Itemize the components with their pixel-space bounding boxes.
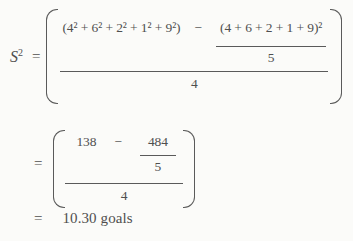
outer-denominator-step2: 4 (121, 184, 128, 205)
sum-squared-value: 484 (140, 133, 176, 155)
outer-fraction-step1: (4² + 6² + 2² + 1² + 9²) − (4 + 6 + 2 + … (58, 14, 330, 100)
sum-squared-value-fraction: 484 5 (140, 133, 176, 176)
minus-operator-step2: − (114, 133, 122, 151)
left-bracket-step1 (46, 9, 58, 104)
sum-squared-term: (4 + 6 + 2 + 1 + 9)² (216, 19, 326, 46)
right-bracket-step1 (330, 9, 342, 104)
left-bracket-step2 (53, 130, 65, 208)
equals-sign-step2: = (34, 155, 42, 172)
inner-denominator-step2: 5 (155, 156, 162, 176)
outer-fraction-step2: 138 − 484 5 4 (65, 131, 182, 208)
inner-denominator-step1: 5 (268, 47, 275, 67)
variance-symbol-exponent: 2 (18, 47, 23, 58)
result-value: 10.30 goals (62, 210, 132, 227)
sum-squared-fraction: (4 + 6 + 2 + 1 + 9)² 5 (216, 19, 326, 67)
right-bracket-step2 (183, 130, 195, 208)
outer-denominator-step1: 4 (191, 72, 198, 93)
sum-of-squares-value: 138 (76, 133, 96, 151)
sum-of-squares-term: (4² + 6² + 2² + 1² + 9²) (62, 19, 180, 37)
minus-operator-step1: − (195, 19, 203, 37)
result-line: = 10.30 goals (34, 210, 133, 227)
variance-formula-step1: S2 = (4² + 6² + 2² + 1² + 9²) − (4 + 6 +… (10, 9, 342, 104)
equals-sign-step1: = (32, 48, 40, 65)
equals-sign-result: = (34, 210, 42, 227)
variance-symbol-base: S (10, 48, 18, 65)
worksheet-page: S2 = (4² + 6² + 2² + 1² + 9²) − (4 + 6 +… (0, 0, 353, 241)
variance-formula-step2: = 138 − 484 5 4 (34, 130, 195, 208)
numerator-row-step1: (4² + 6² + 2² + 1² + 9²) − (4 + 6 + 2 + … (60, 19, 328, 71)
numerator-row-step2: 138 − 484 5 (65, 133, 182, 183)
variance-symbol: S2 (10, 47, 23, 66)
